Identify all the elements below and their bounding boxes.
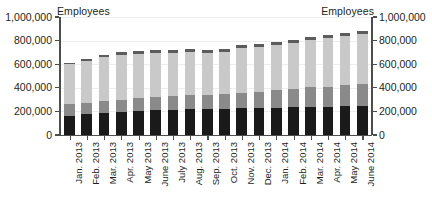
bar-segment-series-2 (305, 87, 316, 106)
right-axis-line (371, 17, 373, 135)
x-axis-label: Jan. 2014 (280, 142, 290, 184)
y-axis-tick (373, 87, 377, 88)
x-axis-label: Sep. 2013 (211, 142, 221, 185)
bar[interactable] (133, 51, 144, 135)
bar-segment-series-1 (288, 107, 299, 135)
bar[interactable] (219, 49, 230, 135)
bar[interactable] (254, 44, 265, 135)
bar-segment-series-3 (185, 52, 196, 94)
x-axis-tick (173, 136, 174, 140)
x-axis-label: Aug. 2013 (194, 142, 204, 185)
bar-segment-series-2 (340, 85, 351, 106)
bar-segment-series-3 (340, 36, 351, 86)
bar-segment-series-2 (271, 90, 282, 108)
bar[interactable] (236, 45, 247, 135)
x-axis-tick (242, 136, 243, 140)
right-axis-title: Employees (321, 5, 374, 17)
bar-segment-series-2 (116, 100, 127, 112)
x-axis-label: June 2014 (366, 142, 376, 186)
bar[interactable] (150, 50, 161, 135)
left-axis-title: Employees (57, 5, 110, 17)
x-axis-tick (104, 136, 105, 140)
bar-segment-series-1 (185, 109, 196, 135)
bar-segment-series-3 (133, 54, 144, 98)
bar[interactable] (357, 31, 368, 135)
y-axis-tick (373, 40, 377, 41)
bar-segment-series-2 (64, 104, 75, 115)
bar[interactable] (340, 33, 351, 135)
x-axis-label: Jan. 2013 (74, 142, 84, 184)
x-axis-label: June 2013 (160, 142, 170, 186)
y-axis-label-left: 600,000 (14, 59, 52, 70)
y-axis-tick (55, 111, 59, 112)
bar-segment-series-3 (116, 55, 127, 100)
bar-segment-series-1 (357, 106, 368, 136)
bar-segment-series-3 (150, 53, 161, 97)
bar[interactable] (185, 49, 196, 135)
bar-segment-series-1 (202, 109, 213, 135)
x-axis-tick (225, 136, 226, 140)
bar[interactable] (116, 52, 127, 135)
bar-segment-series-2 (357, 84, 368, 105)
bar[interactable] (168, 50, 179, 135)
bar[interactable] (305, 37, 316, 135)
bar-segment-series-3 (357, 34, 368, 84)
bar-segment-series-1 (305, 107, 316, 135)
y-axis-tick (373, 64, 377, 65)
x-axis-tick (156, 136, 157, 140)
x-axis-tick (70, 136, 71, 140)
bar-segment-series-2 (99, 101, 110, 113)
y-axis-tick (373, 111, 377, 112)
y-axis-label-left: 1,000,000 (5, 12, 52, 23)
bar[interactable] (202, 50, 213, 135)
bar[interactable] (323, 35, 334, 135)
x-axis-label: May 2014 (349, 142, 359, 184)
x-axis-tick (328, 136, 329, 140)
bar[interactable] (288, 40, 299, 135)
x-axis-label: Oct. 2013 (229, 142, 239, 183)
x-axis-label: Apr. 2013 (125, 142, 135, 183)
y-axis-tick (55, 16, 59, 17)
x-axis-label: Mar. 2014 (315, 142, 325, 184)
bar-segment-series-2 (254, 92, 265, 109)
bar-segment-series-2 (219, 94, 230, 109)
x-axis-label: Apr. 2014 (332, 142, 342, 183)
bar-segment-series-3 (99, 57, 110, 101)
bar-segment-series-1 (219, 109, 230, 135)
x-axis-label: Mar. 2013 (108, 142, 118, 184)
bar-segment-series-3 (236, 48, 247, 93)
plot-area (61, 17, 371, 135)
y-axis-label-right: 1,000,000 (379, 12, 426, 23)
bar-segment-series-3 (202, 53, 213, 95)
y-axis-label-right: 0 (379, 130, 385, 141)
bar[interactable] (81, 59, 92, 135)
bar[interactable] (271, 42, 282, 135)
bar-segment-series-2 (323, 87, 334, 107)
y-axis-tick (55, 134, 59, 135)
x-axis-tick (87, 136, 88, 140)
bar-segment-series-2 (168, 96, 179, 110)
bar[interactable] (64, 63, 75, 135)
bar-segment-series-1 (254, 108, 265, 135)
y-axis-label-left: 400,000 (14, 82, 52, 93)
y-axis-label-right: 400,000 (379, 82, 417, 93)
y-axis-label-left: 200,000 (14, 106, 52, 117)
x-axis-tick (294, 136, 295, 140)
bar-segment-series-3 (64, 64, 75, 104)
bar-segment-series-1 (116, 112, 127, 135)
y-axis-label-right: 200,000 (379, 106, 417, 117)
x-axis-tick (207, 136, 208, 140)
bar-segment-series-1 (150, 110, 161, 135)
x-axis-tick (139, 136, 140, 140)
stacked-bar-chart: Employees Employees 00200,000200,000400,… (0, 0, 432, 206)
bar-segment-series-2 (288, 89, 299, 107)
bar-segment-series-1 (271, 108, 282, 135)
x-axis-tick (121, 136, 122, 140)
bar-segment-series-3 (254, 47, 265, 92)
bar[interactable] (99, 55, 110, 135)
bar-segment-series-3 (271, 45, 282, 90)
y-axis-label-left: 800,000 (14, 35, 52, 46)
bar-segment-series-3 (305, 40, 316, 87)
x-axis-tick (259, 136, 260, 140)
bar-segment-series-2 (133, 98, 144, 110)
